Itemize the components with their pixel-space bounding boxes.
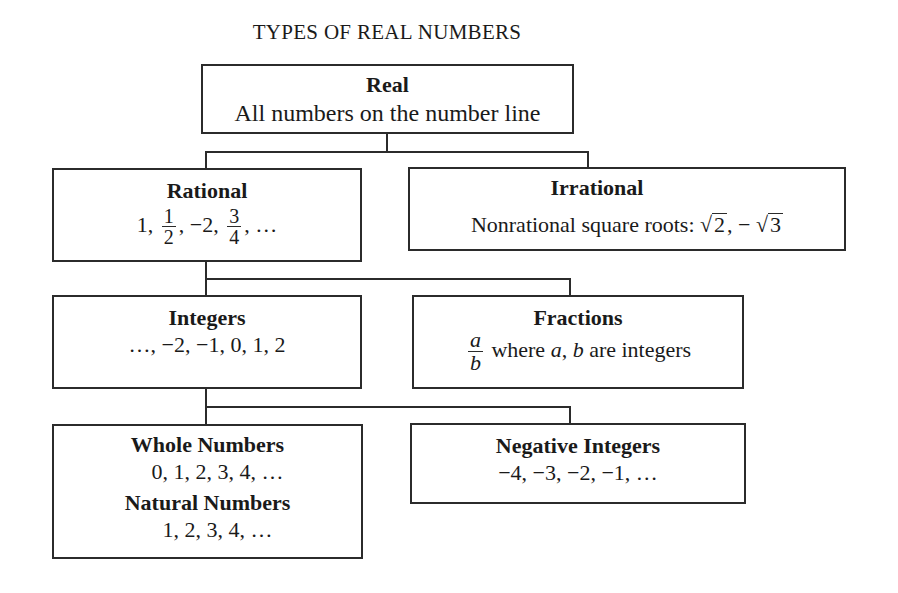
connector — [569, 406, 571, 424]
variable-a: a — [551, 337, 562, 362]
node-negative-examples: −4, −3, −2, −1, … — [412, 459, 744, 487]
connector — [569, 278, 571, 296]
connector — [205, 406, 571, 408]
fraction-three-quarters: 3 4 — [227, 206, 241, 247]
numerator: a — [468, 329, 483, 352]
node-negative-integers: Negative Integers −4, −3, −2, −1, … — [410, 423, 746, 504]
node-integers: Integers …, −2, −1, 0, 1, 2 — [52, 295, 362, 389]
description-text: where — [491, 337, 545, 362]
denominator: 2 — [162, 227, 176, 247]
node-fractions-label: Fractions — [414, 305, 742, 331]
denominator: 4 — [227, 227, 241, 247]
node-real-label: Real — [203, 72, 572, 98]
connector — [205, 278, 571, 280]
node-rational-label: Rational — [54, 178, 360, 204]
node-natural-examples: 1, 2, 3, 4, … — [54, 516, 361, 544]
radicand: 2 — [712, 213, 727, 236]
numerator: 3 — [227, 206, 241, 227]
sqrt-three: √3 — [756, 211, 783, 239]
node-irrational-label: Irrational — [350, 175, 844, 201]
radical-icon: √ — [700, 212, 712, 237]
description-text: Nonrational square roots: — [471, 212, 695, 237]
node-negative-label: Negative Integers — [412, 433, 744, 459]
node-natural-label: Natural Numbers — [54, 490, 361, 516]
variable-b: b — [573, 337, 584, 362]
node-irrational: Irrational Nonrational square roots: √2,… — [408, 167, 846, 251]
denominator: b — [468, 352, 483, 374]
node-fractions: Fractions a b where a, b are integers — [412, 295, 744, 389]
connector — [386, 133, 388, 153]
radicand: 3 — [768, 213, 783, 236]
separator: , − — [727, 212, 750, 237]
example-text: , −2, — [179, 212, 219, 237]
node-rational: Rational 1, 1 2 , −2, 3 4 , … — [52, 168, 362, 262]
node-integers-examples: …, −2, −1, 0, 1, 2 — [54, 331, 360, 359]
diagram-title: TYPES OF REAL NUMBERS — [0, 20, 774, 45]
node-real: Real All numbers on the number line — [201, 64, 574, 134]
node-rational-examples: 1, 1 2 , −2, 3 4 , … — [54, 206, 360, 247]
fraction-a-over-b: a b — [468, 329, 483, 374]
connector — [205, 151, 589, 153]
example-text: , … — [244, 212, 277, 237]
connector — [587, 151, 589, 168]
numerator: 1 — [162, 206, 176, 227]
node-integers-label: Integers — [54, 305, 360, 331]
separator: , — [562, 337, 568, 362]
connector — [205, 151, 207, 169]
node-real-description: All numbers on the number line — [203, 98, 572, 128]
radical-icon: √ — [756, 212, 768, 237]
example-text: 1, — [137, 212, 154, 237]
description-text: are integers — [589, 337, 691, 362]
fraction-one-half: 1 2 — [162, 206, 176, 247]
node-whole-examples: 0, 1, 2, 3, 4, … — [54, 458, 361, 486]
node-fractions-description: a b where a, b are integers — [414, 329, 742, 374]
node-irrational-description: Nonrational square roots: √2, − √3 — [410, 211, 844, 239]
node-whole-label: Whole Numbers — [54, 432, 361, 458]
node-whole-natural: Whole Numbers 0, 1, 2, 3, 4, … Natural N… — [52, 424, 363, 559]
sqrt-two: √2 — [700, 211, 727, 239]
